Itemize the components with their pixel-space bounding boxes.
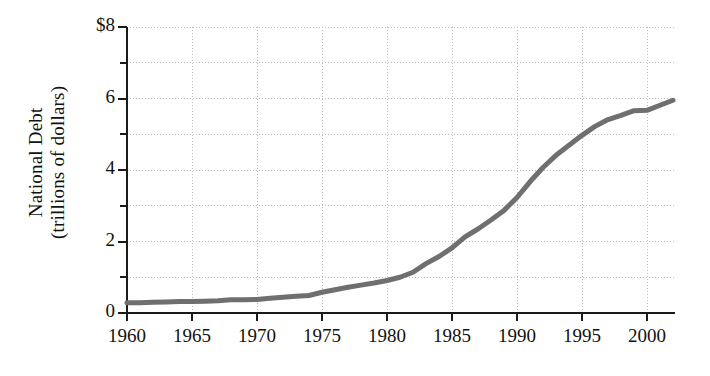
y-gridlines	[127, 27, 675, 277]
chart-container: National Debt (trillions of dollars) 024…	[0, 0, 710, 376]
data-line-national-debt	[127, 100, 673, 302]
chart-plot	[0, 0, 710, 376]
x-axis-ticks	[127, 313, 647, 321]
y-axis-ticks	[118, 27, 127, 313]
